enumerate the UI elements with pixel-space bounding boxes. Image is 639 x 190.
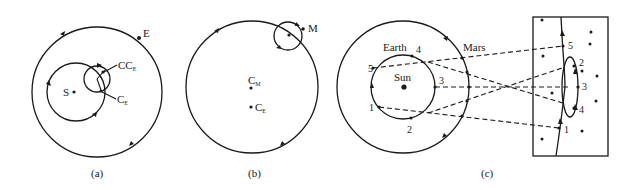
earth-center-dot xyxy=(249,105,252,108)
sky-position-2 xyxy=(572,64,575,67)
label-c-m: CM xyxy=(248,74,261,87)
label-mars: Mars xyxy=(463,41,486,53)
sky-label-1: 1 xyxy=(564,124,569,135)
star-dot xyxy=(589,43,592,46)
label-pos-3: 3 xyxy=(439,75,444,86)
label-c-e: CE xyxy=(117,93,128,106)
star-dot xyxy=(541,138,544,141)
moon-center-dot xyxy=(249,86,252,89)
star-dot xyxy=(581,130,584,133)
sky-position-1 xyxy=(557,126,560,129)
earth-position-2 xyxy=(409,116,412,119)
label-m: M xyxy=(308,22,318,34)
orbit-point xyxy=(287,33,290,36)
panel-c: Earth Mars Sun 1 2 3 4 5 (c) 1 2 3 4 5 xyxy=(337,17,608,180)
star-dot xyxy=(596,75,599,78)
star-dot xyxy=(551,92,554,95)
direction-arrow-icon xyxy=(560,30,565,36)
astronomy-diagram: E S CCE CE (a) M CM CE (b) xyxy=(0,0,639,190)
sight-line-4 xyxy=(428,62,566,104)
panel-a: E S CCE CE (a) xyxy=(32,27,162,180)
earth-point xyxy=(137,36,141,40)
caption-c: (c) xyxy=(481,167,494,180)
sight-line-2 xyxy=(428,68,562,113)
direction-arrow-icon xyxy=(295,22,300,26)
leader-line xyxy=(104,65,117,72)
star-dot xyxy=(542,55,545,58)
sky-view-box xyxy=(533,17,608,156)
star-dot xyxy=(581,70,584,73)
label-pos-2: 2 xyxy=(407,124,412,135)
sky-position-5 xyxy=(561,44,564,47)
star-dot xyxy=(541,19,544,22)
label-earth: Earth xyxy=(383,41,407,53)
earth-position-4 xyxy=(410,54,413,57)
panel-b: M CM CE (b) xyxy=(186,21,318,180)
sky-position-3 xyxy=(576,85,579,88)
mars-position xyxy=(465,70,468,73)
star-dot xyxy=(590,31,593,34)
sky-label-5: 5 xyxy=(568,40,573,51)
sky-label-3: 3 xyxy=(582,81,587,92)
label-pos-1: 1 xyxy=(369,102,374,113)
sun-dot xyxy=(401,84,406,89)
direction-arrow-icon xyxy=(558,118,563,124)
epicycle-radius-line xyxy=(97,79,101,90)
label-pos-5: 5 xyxy=(368,63,373,74)
label-e: E xyxy=(143,27,150,39)
label-c-e: CE xyxy=(255,101,266,114)
label-cc-e: CCE xyxy=(118,59,137,72)
label-sun: Sun xyxy=(394,71,412,83)
sky-label-4: 4 xyxy=(579,104,584,115)
moon-point xyxy=(301,27,305,31)
sight-line-1 xyxy=(379,107,559,128)
label-pos-4: 4 xyxy=(416,44,421,55)
sky-label-2: 2 xyxy=(579,57,584,68)
sky-position-4 xyxy=(572,106,575,109)
sun-dot xyxy=(72,90,75,93)
caption-a: (a) xyxy=(91,167,104,180)
star-dot xyxy=(595,100,598,103)
caption-b: (b) xyxy=(248,167,261,180)
label-s: S xyxy=(63,86,69,98)
